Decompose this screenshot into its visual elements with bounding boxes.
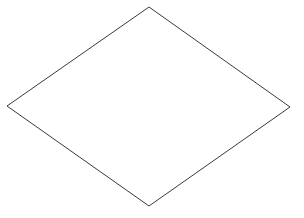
canvas-background — [0, 0, 304, 218]
drawing-canvas — [0, 0, 304, 218]
shape-canvas-svg — [0, 0, 304, 218]
